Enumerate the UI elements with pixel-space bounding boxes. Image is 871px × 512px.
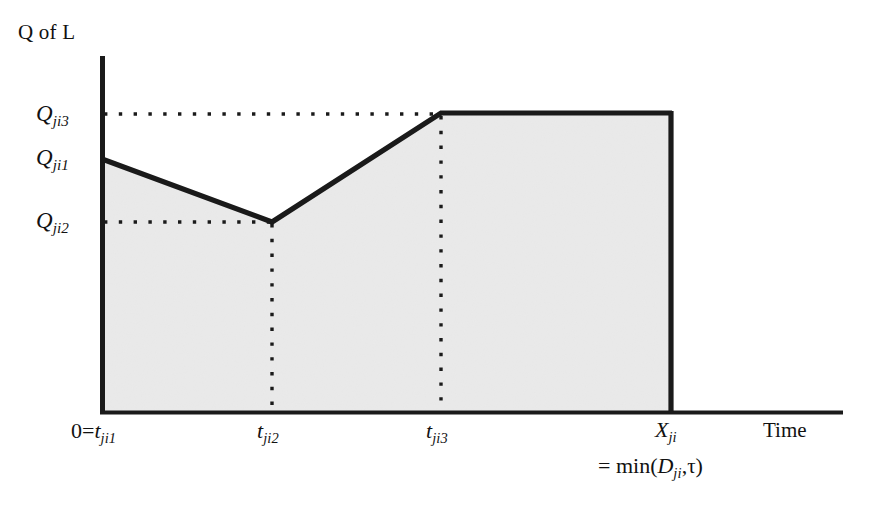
y-tick-q-ji2-base: Q xyxy=(36,208,53,233)
y-tick-q-ji1-subscript: ji1 xyxy=(53,156,69,173)
x-ji-definition-formula: = min(Dji,τ) xyxy=(598,455,703,477)
y-tick-q-ji2-subscript: ji2 xyxy=(53,219,69,236)
formula-tau-symbol: τ xyxy=(687,454,695,478)
formula-close-paren: ) xyxy=(696,453,703,478)
formula-d-base: D xyxy=(657,453,673,478)
chart-figure: Q of L Qji3 Qji1 Qji2 0=tji1 tji2 tji3 X… xyxy=(0,0,871,512)
x-axis-title: Time xyxy=(763,420,807,441)
x-tick-label-t-ji1: 0=tji1 xyxy=(71,420,116,442)
formula-d-subscript: ji xyxy=(673,465,681,481)
x-tick-x-ji-subscript: ji xyxy=(668,429,676,445)
y-tick-q-ji3-base: Q xyxy=(36,101,53,126)
y-tick-label-q-ji3: Qji3 xyxy=(36,102,69,125)
x-tick-x-ji-base: X xyxy=(655,417,668,442)
y-tick-q-ji1-base: Q xyxy=(36,145,53,170)
formula-equals-min: = min( xyxy=(598,453,657,478)
x-tick-t-ji2-subscript: ji2 xyxy=(263,430,279,446)
x-tick-label-x-ji: Xji xyxy=(655,419,677,441)
y-tick-label-q-ji1: Qji1 xyxy=(36,146,69,169)
shaded-area-group xyxy=(102,113,672,412)
y-tick-label-q-ji2: Qji2 xyxy=(36,209,69,232)
y-axis-title: Q of L xyxy=(18,22,75,43)
y-tick-q-ji3-subscript: ji3 xyxy=(53,112,69,129)
shaded-area-texture xyxy=(102,113,672,412)
x-tick-t-ji1-prefix: 0= xyxy=(71,418,94,443)
x-tick-t-ji3-subscript: ji3 xyxy=(432,430,448,446)
x-tick-label-t-ji3: tji3 xyxy=(426,420,448,442)
x-tick-t-ji1-base: t xyxy=(94,418,100,443)
x-tick-label-t-ji2: tji2 xyxy=(257,420,279,442)
x-tick-t-ji1-subscript: ji1 xyxy=(101,430,117,446)
